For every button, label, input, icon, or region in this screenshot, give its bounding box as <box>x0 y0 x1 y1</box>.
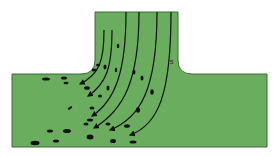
particle <box>92 69 97 72</box>
particle <box>141 76 144 81</box>
particle <box>107 86 110 91</box>
particle <box>63 129 71 133</box>
particle <box>87 135 94 140</box>
t-junction-diagram: 5 <box>0 0 278 156</box>
streamline-label: 5 <box>170 59 173 65</box>
particle <box>53 140 59 143</box>
particle <box>31 141 40 145</box>
particle <box>130 141 137 144</box>
particle <box>104 65 107 70</box>
particle <box>96 64 100 66</box>
particle <box>124 124 130 128</box>
particle <box>64 82 69 84</box>
particle <box>133 70 136 75</box>
particle <box>117 44 120 48</box>
particle <box>84 123 89 126</box>
particle <box>150 89 154 95</box>
particle <box>47 130 53 133</box>
particle <box>115 68 117 72</box>
particle <box>84 86 90 90</box>
particle <box>110 139 116 143</box>
particle <box>61 77 67 80</box>
particle <box>106 123 111 126</box>
particle <box>98 95 102 98</box>
particle <box>136 107 140 113</box>
particle <box>90 107 95 110</box>
particle <box>87 119 93 122</box>
fluid-region <box>12 12 267 147</box>
particle <box>42 77 50 80</box>
flow-diagram-svg <box>0 0 278 156</box>
